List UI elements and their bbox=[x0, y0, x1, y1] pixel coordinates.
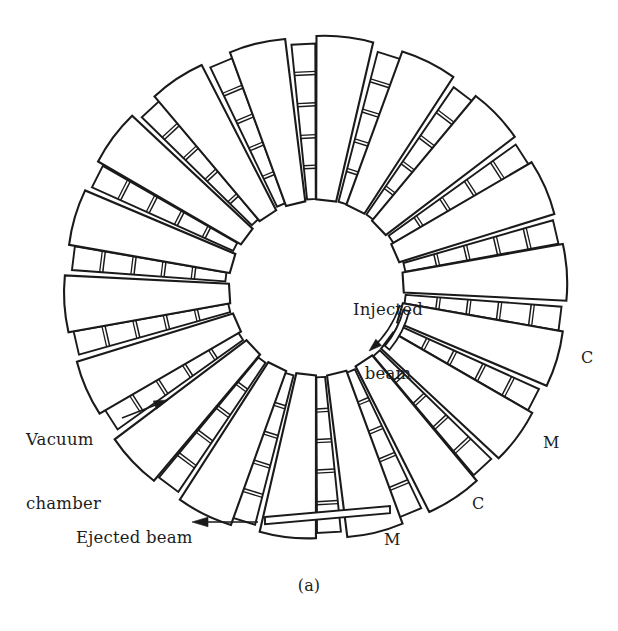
legend-mark-m-lower: M bbox=[384, 530, 401, 550]
chamber-segment-divider bbox=[317, 442, 332, 443]
chamber-segment-divider bbox=[317, 411, 329, 412]
chamber-segment-divider bbox=[304, 168, 316, 169]
chamber-segment-divider bbox=[317, 439, 332, 440]
injected-beam-label: Injected beam bbox=[336, 257, 440, 426]
chamber-segment-divider bbox=[301, 135, 316, 136]
arrowhead bbox=[192, 517, 208, 527]
figure-caption: (a) bbox=[291, 576, 327, 596]
legend-mark-c-upper: C bbox=[581, 348, 593, 368]
ejected-beam-label: Ejected beam bbox=[76, 527, 193, 548]
injected-beam-label-line1: Injected bbox=[336, 299, 440, 320]
chamber-segment-divider bbox=[298, 106, 316, 107]
chamber-segment-divider bbox=[317, 469, 335, 470]
legend-mark-m-upper: M bbox=[543, 433, 560, 453]
vacuum-chamber-label-line1: Vacuum bbox=[26, 429, 156, 450]
legend-mark-c-lower: C bbox=[472, 494, 484, 514]
figure-root: Injected beam Vacuum chamber Ejected bea… bbox=[0, 0, 618, 631]
chamber-segment-divider bbox=[301, 138, 316, 139]
injected-beam-label-line2: beam bbox=[336, 363, 440, 384]
chamber-segment-divider bbox=[304, 165, 316, 166]
vacuum-chamber-label-line2: chamber bbox=[26, 493, 156, 514]
chamber-segment-divider bbox=[317, 408, 329, 409]
